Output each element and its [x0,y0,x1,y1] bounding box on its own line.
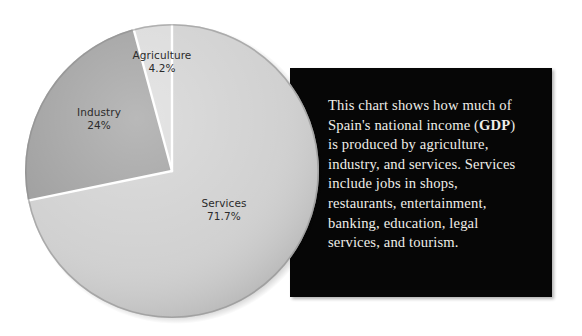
caption-bold-term: GDP [479,117,510,133]
pie-label-industry-name: Industry [56,106,142,119]
caption-text: This chart shows how much of Spain's nat… [328,96,524,253]
caption-part-2: ) is produced by agriculture, industry, … [328,117,515,251]
chart-page: This chart shows how much of Spain's nat… [0,0,582,336]
pie-chart: Agriculture 4.2% Industry 24% Services 7… [24,18,324,324]
pie-label-industry-value: 24% [56,119,142,132]
pie-label-agriculture: Agriculture 4.2% [112,49,212,74]
pie-label-services: Services 71.7% [178,197,270,222]
pie-label-industry: Industry 24% [56,106,142,131]
pie-label-services-name: Services [178,197,270,210]
pie-label-agriculture-value: 4.2% [112,62,212,75]
pie-label-services-value: 71.7% [178,210,270,223]
caption-panel: This chart shows how much of Spain's nat… [290,68,552,297]
pie-label-agriculture-name: Agriculture [112,49,212,62]
